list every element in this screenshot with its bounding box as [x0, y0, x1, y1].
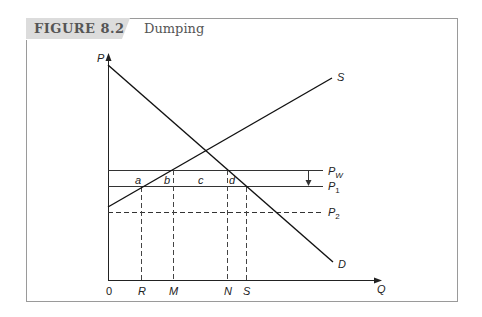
x-tick-s: S — [243, 285, 251, 297]
supply-curve — [108, 78, 332, 207]
x-tick-r: R — [138, 285, 146, 297]
figure-frame — [27, 19, 458, 302]
demand-label: D — [338, 258, 346, 270]
x-tick-m: M — [169, 285, 179, 297]
region-b-label: b — [164, 174, 170, 186]
dumping-figure: FIGURE 8.2 Dumping P Q 0 PW P1 P2 S D a … — [0, 0, 482, 317]
p1-label: P1 — [328, 180, 340, 195]
pw-label: PW — [328, 165, 344, 180]
p2-label: P2 — [328, 206, 340, 221]
figure-label: FIGURE 8.2 — [34, 21, 125, 36]
arrow-down-icon — [306, 180, 312, 186]
region-d-label: d — [229, 174, 236, 186]
y-axis-arrow-icon — [106, 53, 112, 61]
x-tick-n: N — [224, 285, 232, 297]
supply-label: S — [337, 71, 345, 83]
demand-curve — [108, 65, 333, 262]
y-axis-label: P — [97, 52, 105, 64]
figure-title: Dumping — [144, 21, 204, 36]
region-a-label: a — [135, 174, 141, 186]
x-axis-label: Q — [377, 283, 386, 295]
region-c-label: c — [198, 174, 204, 186]
origin-label: 0 — [106, 285, 112, 297]
